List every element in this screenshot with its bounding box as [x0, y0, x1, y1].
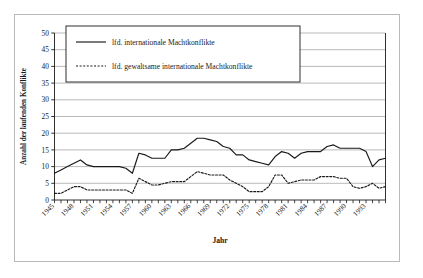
y-axis-title: Anzahl der laufenden Konflikte	[20, 68, 28, 165]
legend-label-1: lfd. gewaltsame internationale Machtkonf…	[112, 62, 253, 71]
y-axis-ticks-group: 05101520253035404550	[42, 29, 55, 205]
y-tick-label: 30	[42, 95, 50, 104]
x-tick-label: 1969	[196, 202, 212, 218]
x-tick-label: 1948	[60, 202, 76, 218]
legend-group: lfd. internationale Machtkonfliktelfd. g…	[66, 26, 300, 82]
y-tick-label: 25	[42, 112, 50, 121]
series-line-1	[55, 172, 386, 194]
x-tick-label: 1951	[79, 202, 95, 218]
data-series-group	[55, 138, 386, 193]
x-tick-label: 1978	[254, 202, 270, 218]
x-tick-label: 1975	[235, 202, 251, 218]
x-tick-label: 1987	[313, 202, 329, 218]
legend-box	[66, 26, 300, 82]
y-tick-label: 10	[42, 162, 50, 171]
y-tick-label: 45	[42, 45, 50, 54]
y-tick-label: 15	[42, 146, 50, 155]
x-tick-label: 1960	[137, 202, 153, 218]
chart-page: 05101520253035404550 1945194819511954195…	[0, 0, 423, 278]
line-chart-svg: 05101520253035404550 1945194819511954195…	[0, 0, 423, 278]
x-axis-title: Jahr	[212, 236, 228, 245]
y-tick-label: 5	[45, 179, 49, 188]
x-tick-label: 1993	[352, 202, 368, 218]
series-line-0	[55, 138, 386, 173]
x-axis-ticks-group: 1945194819511954195719601963196619691972…	[40, 200, 385, 218]
x-tick-label: 1945	[40, 202, 56, 218]
x-tick-label: 1984	[293, 202, 309, 218]
x-tick-label: 1972	[215, 202, 231, 218]
x-tick-label: 1954	[99, 202, 115, 218]
y-tick-label: 35	[42, 79, 50, 88]
x-tick-label: 1957	[118, 202, 134, 218]
chart-canvas: 05101520253035404550 1945194819511954195…	[0, 0, 423, 278]
y-tick-label: 50	[42, 29, 50, 38]
x-tick-label: 1963	[157, 202, 173, 218]
x-tick-label: 1966	[176, 202, 192, 218]
y-tick-label: 20	[42, 129, 50, 138]
x-tick-label: 1981	[274, 202, 290, 218]
y-tick-label: 40	[42, 62, 50, 71]
legend-label-0: lfd. internationale Machtkonflikte	[112, 38, 215, 47]
x-tick-label: 1990	[332, 202, 348, 218]
